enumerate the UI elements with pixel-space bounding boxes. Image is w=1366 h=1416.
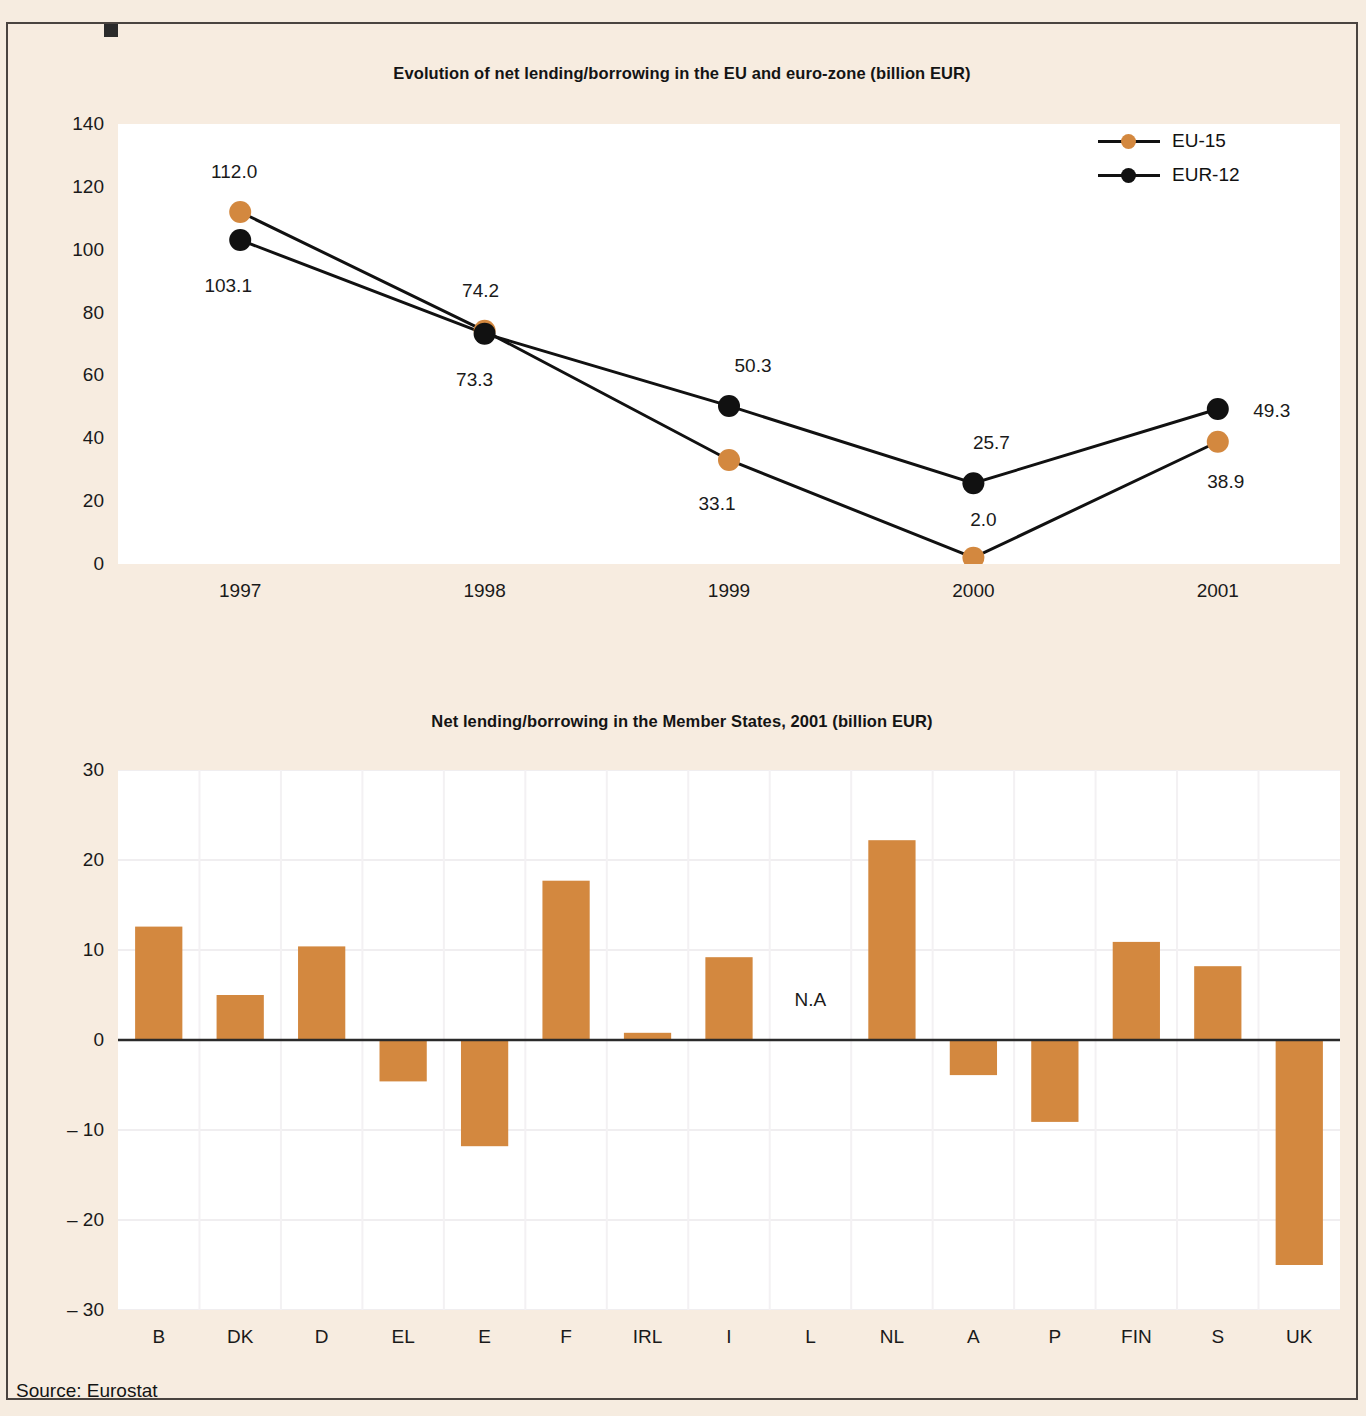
bar-chart-x-tick: IRL [633,1326,663,1348]
bar-chart-plot-area: N.A [118,770,1340,1310]
bar-chart-x-tick: NL [880,1326,904,1348]
figure-frame: Evolution of net lending/borrowing in th… [6,22,1358,1400]
bar-FIN[interactable] [1113,942,1160,1040]
legend-marker-icon [1098,134,1160,148]
value-label-eur-12-2000: 25.7 [973,432,1010,454]
line-chart: Evolution of net lending/borrowing in th… [8,64,1356,684]
legend-item-eu-15[interactable]: EU-15 [1098,124,1288,158]
bar-chart-x-tick: DK [227,1326,253,1348]
bar-chart-x-axis: BDKDELEFIRLILNLAPFINSUK [118,1326,1340,1356]
bar-chart-x-tick: S [1211,1326,1224,1348]
bar-chart-y-tick: – 30 [67,1299,104,1321]
line-chart-y-tick: 120 [72,176,104,198]
bar-chart-x-tick: B [152,1326,165,1348]
bar-chart-y-axis: 3020100– 10– 20– 30 [8,770,104,1310]
value-label-eu-15-2000: 2.0 [970,509,996,531]
value-label-eu-15-1997: 112.0 [211,161,257,183]
line-chart-x-tick: 2001 [1197,580,1239,602]
line-chart-title: Evolution of net lending/borrowing in th… [8,64,1356,83]
bar-NL[interactable] [868,840,915,1040]
na-annotation-L: N.A [795,989,827,1011]
source-note: Source: Eurostat [16,1380,158,1402]
line-chart-x-tick: 1999 [708,580,750,602]
bar-chart-x-tick: FIN [1121,1326,1152,1348]
line-chart-x-tick: 1997 [219,580,261,602]
bar-chart-x-tick: D [315,1326,329,1348]
line-chart-y-tick: 60 [83,364,104,386]
bar-chart-y-tick: 0 [93,1029,104,1051]
bar-P[interactable] [1031,1040,1078,1122]
value-label-eu-15-1998: 74.2 [462,280,499,302]
bar-chart-x-tick: UK [1286,1326,1312,1348]
bar-chart: Net lending/borrowing in the Member Stat… [8,712,1356,1372]
bar-EL[interactable] [380,1040,427,1081]
value-label-eur-12-1997: 103.1 [204,275,252,297]
line-chart-y-tick: 100 [72,239,104,261]
bar-chart-y-tick: 30 [83,759,104,781]
line-chart-y-tick: 140 [72,113,104,135]
legend-label: EUR-12 [1172,164,1240,186]
legend-label: EU-15 [1172,130,1226,152]
line-chart-x-axis: 19971998199920002001 [118,580,1340,610]
figure-corner-mark [104,24,118,37]
line-chart-x-tick: 2000 [952,580,994,602]
bar-chart-x-tick: I [726,1326,731,1348]
legend-item-eur-12[interactable]: EUR-12 [1098,158,1288,192]
bar-chart-x-tick: A [967,1326,980,1348]
bar-chart-x-tick: EL [392,1326,415,1348]
line-chart-y-axis: 020406080100120140 [8,124,104,564]
value-label-eur-12-2001: 49.3 [1253,400,1290,422]
bar-A[interactable] [950,1040,997,1075]
legend-marker-icon [1098,168,1160,182]
bar-F[interactable] [542,881,589,1040]
bar-UK[interactable] [1276,1040,1323,1265]
bar-chart-y-tick: 10 [83,939,104,961]
value-label-eur-12-1999: 50.3 [735,355,772,377]
source-note-text: Source: Eurostat [16,1380,158,1401]
line-chart-x-tick: 1998 [463,580,505,602]
bar-chart-x-tick: P [1049,1326,1062,1348]
value-label-eu-15-1999: 33.1 [699,493,736,515]
bar-chart-y-tick: – 20 [67,1209,104,1231]
line-chart-y-tick: 40 [83,427,104,449]
bar-D[interactable] [298,946,345,1040]
bar-chart-y-tick: 20 [83,849,104,871]
bar-DK[interactable] [217,995,264,1040]
bar-I[interactable] [705,957,752,1040]
line-chart-legend: EU-15EUR-12 [1098,124,1288,192]
bar-E[interactable] [461,1040,508,1146]
line-chart-y-tick: 0 [93,553,104,575]
bar-B[interactable] [135,927,182,1040]
bar-chart-title: Net lending/borrowing in the Member Stat… [8,712,1356,731]
bar-chart-y-tick: – 10 [67,1119,104,1141]
bar-chart-x-tick: F [560,1326,572,1348]
line-chart-y-tick: 80 [83,302,104,324]
value-label-eu-15-2001: 38.9 [1207,471,1244,493]
line-chart-y-tick: 20 [83,490,104,512]
value-label-eur-12-1998: 73.3 [456,369,493,391]
bar-chart-x-tick: L [805,1326,816,1348]
bar-S[interactable] [1194,966,1241,1040]
bar-chart-svg [118,770,1340,1310]
bar-chart-x-tick: E [478,1326,491,1348]
